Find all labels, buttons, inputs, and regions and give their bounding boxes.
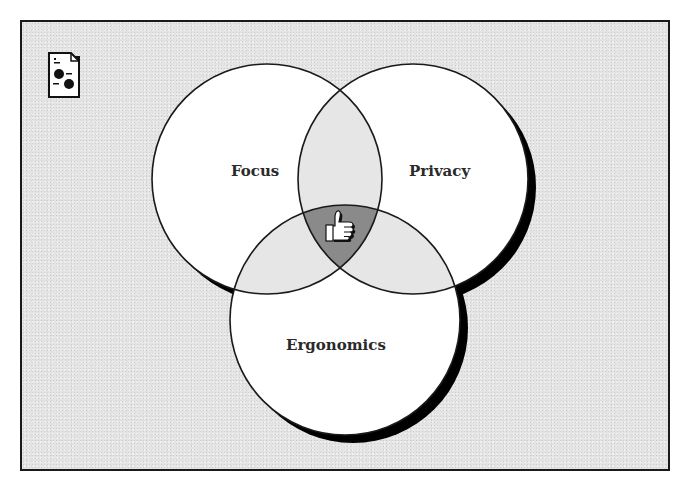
label-privacy: Privacy	[409, 162, 471, 180]
venn-diagram: Focus Privacy Ergonomics	[0, 0, 691, 489]
label-focus: Focus	[231, 162, 279, 180]
label-ergonomics: Ergonomics	[286, 336, 386, 354]
